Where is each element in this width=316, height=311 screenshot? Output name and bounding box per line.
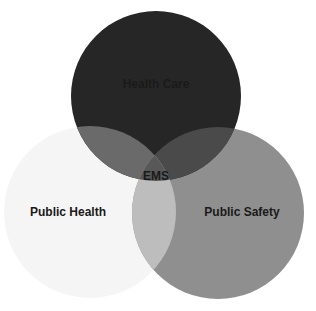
health-care-label: Health Care: [123, 77, 190, 91]
public-safety-label: Public Safety: [204, 205, 280, 219]
venn-diagram: Health Care EMS Public Health Public Saf…: [0, 0, 316, 311]
ems-label: EMS: [143, 169, 169, 183]
public-health-label: Public Health: [30, 205, 106, 219]
